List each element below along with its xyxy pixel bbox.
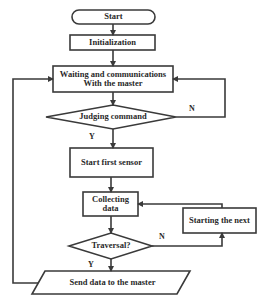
- start-label: Start: [72, 10, 155, 24]
- traversal-label: Traversal?: [80, 239, 142, 253]
- collecting-label: Collecting data: [85, 192, 136, 216]
- judging-label: Judging command: [60, 110, 166, 124]
- traversal-no-label: N: [159, 232, 165, 241]
- edge-send-loop: [13, 79, 53, 283]
- send-data-label: Send data to the master: [60, 271, 165, 294]
- judging-yes-label: Y: [89, 132, 95, 141]
- traversal-yes-label: Y: [88, 260, 94, 269]
- judging-no-label: N: [189, 104, 195, 113]
- initialization-label: Initialization: [70, 35, 155, 50]
- edge-judging-no-loop: [173, 79, 225, 117]
- waiting-label: Waiting and communications With the mast…: [55, 66, 171, 92]
- first-sensor-label: Start first sensor: [70, 148, 153, 177]
- starting-next-label: Starting the next: [183, 208, 256, 233]
